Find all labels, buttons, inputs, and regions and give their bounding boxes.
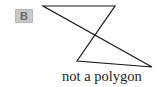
figure-caption: not a polygon — [62, 68, 142, 84]
figure-outline — [43, 6, 152, 67]
diagram-canvas: B not a polygon — [0, 0, 158, 87]
